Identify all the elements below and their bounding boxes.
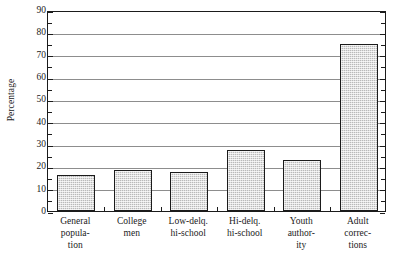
y-axis-tick-label: 20 <box>6 162 46 172</box>
y-axis-tick-label: 50 <box>6 95 46 105</box>
bar <box>57 175 95 211</box>
x-axis-label-line: men <box>104 227 161 239</box>
bar <box>170 172 208 211</box>
bar <box>227 150 265 211</box>
bar <box>340 44 378 212</box>
x-axis-label-line: popula- <box>47 227 104 239</box>
bar <box>283 160 321 211</box>
y-axis-tick-label: 0 <box>6 207 46 217</box>
x-axis-tick-label: Adultcorrec-tions <box>330 215 387 252</box>
x-axis-label-line: hi-school <box>160 227 217 239</box>
x-axis-label-line: Adult <box>330 215 387 227</box>
x-axis-label-line: Hi-delq. <box>217 215 274 227</box>
x-axis-label-line: tion <box>47 239 104 251</box>
y-major-tick <box>48 213 53 214</box>
x-axis-label-line: author- <box>273 227 330 239</box>
x-axis-label-line: tions <box>330 239 387 251</box>
x-axis-tick-label: Low-delq.hi-school <box>160 215 217 239</box>
y-axis-tick-label: 80 <box>6 28 46 38</box>
x-axis-tick-label: Generalpopula-tion <box>47 215 104 252</box>
x-axis-tick-labels: Generalpopula-tionCollegemenLow-delq.hi-… <box>47 215 386 263</box>
y-axis-tick-label: 70 <box>6 51 46 61</box>
y-axis-tick-label: 40 <box>6 118 46 128</box>
x-axis-label-line: hi-school <box>217 227 274 239</box>
y-axis-tick-label: 60 <box>6 73 46 83</box>
y-axis-tick-label: 10 <box>6 185 46 195</box>
x-axis-label-line: correc- <box>330 227 387 239</box>
x-axis-tick-label: Collegemen <box>104 215 161 239</box>
x-axis-tick-label: Youthauthor-ity <box>273 215 330 252</box>
x-axis-label-line: Low-delq. <box>160 215 217 227</box>
x-axis-label-line: General <box>47 215 104 227</box>
bars-layer <box>48 12 385 211</box>
bar <box>114 170 152 211</box>
x-axis-label-line: ity <box>273 239 330 251</box>
x-axis-label-line: College <box>104 215 161 227</box>
bar-chart-figure: Percentage 0102030405060708090 Generalpo… <box>0 0 398 263</box>
plot-area <box>47 11 386 212</box>
y-axis-tick-label: 90 <box>6 6 46 16</box>
y-axis-tick-label: 30 <box>6 140 46 150</box>
x-axis-label-line: Youth <box>273 215 330 227</box>
y-major-tick-right <box>380 213 385 214</box>
x-axis-tick-label: Hi-delq.hi-school <box>217 215 274 239</box>
